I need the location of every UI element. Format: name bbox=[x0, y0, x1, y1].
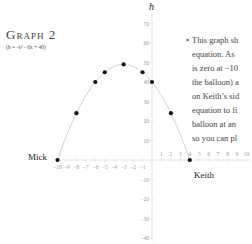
bullet-icon: • bbox=[186, 33, 189, 47]
svg-text:20: 20 bbox=[144, 118, 150, 124]
mick-label: Mick bbox=[28, 152, 47, 162]
note-line: on Keith’s sid bbox=[186, 89, 252, 103]
svg-text:70: 70 bbox=[144, 21, 150, 27]
svg-text:−20: −20 bbox=[140, 196, 149, 202]
data-point bbox=[150, 80, 154, 84]
keith-label: Keith bbox=[194, 170, 214, 180]
data-point bbox=[55, 158, 59, 162]
svg-text:9: 9 bbox=[236, 151, 239, 157]
note-line: so you can pl bbox=[186, 131, 252, 145]
data-point bbox=[140, 70, 144, 74]
data-point bbox=[93, 80, 97, 84]
note-line: balloon at an bbox=[186, 117, 252, 131]
svg-text:60: 60 bbox=[144, 40, 150, 46]
svg-text:7: 7 bbox=[217, 151, 220, 157]
svg-text:−2: −2 bbox=[130, 164, 136, 170]
svg-text:−7: −7 bbox=[83, 164, 89, 170]
data-point bbox=[103, 70, 107, 74]
data-point bbox=[122, 62, 126, 66]
note-line: equation to fi bbox=[186, 103, 252, 117]
data-point bbox=[169, 111, 173, 115]
svg-text:10: 10 bbox=[144, 138, 150, 144]
svg-text:8: 8 bbox=[226, 151, 229, 157]
svg-text:50: 50 bbox=[144, 60, 150, 66]
svg-text:10: 10 bbox=[244, 151, 250, 157]
svg-text:−30: −30 bbox=[140, 216, 149, 222]
note-line: is zero at −10 bbox=[186, 61, 252, 75]
svg-text:5: 5 bbox=[198, 151, 201, 157]
svg-text:−1: −1 bbox=[140, 164, 146, 170]
svg-text:6: 6 bbox=[207, 151, 210, 157]
svg-text:2: 2 bbox=[170, 151, 173, 157]
svg-text:−40: −40 bbox=[140, 235, 149, 241]
svg-text:−6: −6 bbox=[92, 164, 98, 170]
y-axis-label: h bbox=[149, 1, 154, 12]
note-line: the balloon) a bbox=[186, 75, 252, 89]
svg-text:3: 3 bbox=[179, 151, 182, 157]
svg-text:1: 1 bbox=[160, 151, 163, 157]
svg-text:−3: −3 bbox=[121, 164, 127, 170]
svg-text:−4: −4 bbox=[111, 164, 117, 170]
data-point bbox=[74, 111, 78, 115]
svg-text:40: 40 bbox=[144, 79, 150, 85]
svg-text:−10: −10 bbox=[140, 177, 149, 183]
svg-text:−9: −9 bbox=[64, 164, 70, 170]
svg-text:−10: −10 bbox=[53, 164, 62, 170]
svg-text:−5: −5 bbox=[102, 164, 108, 170]
note-line: This graph sh bbox=[186, 33, 252, 47]
svg-text:−8: −8 bbox=[73, 164, 79, 170]
explanation-note: • This graph sh equation. As is zero at … bbox=[186, 33, 252, 145]
data-point bbox=[188, 158, 192, 162]
svg-text:30: 30 bbox=[144, 99, 150, 105]
note-line: equation. As bbox=[186, 47, 252, 61]
